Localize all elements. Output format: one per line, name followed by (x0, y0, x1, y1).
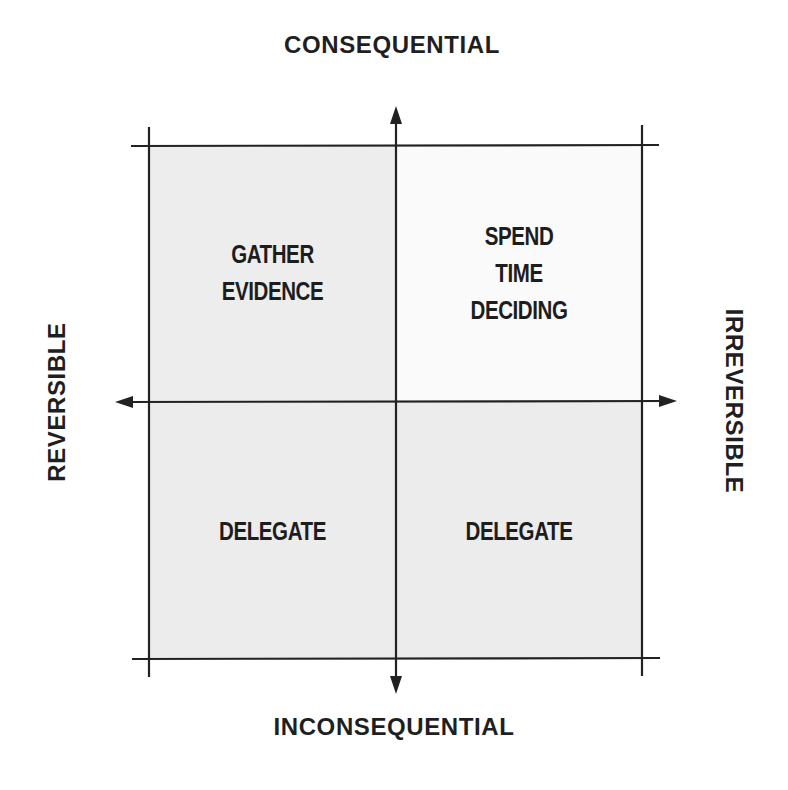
axis-label-text: REVERSIBLE (43, 322, 70, 481)
arrow-right-icon (659, 395, 677, 407)
arrow-left-icon (115, 396, 133, 408)
grid-lines (0, 0, 788, 790)
axis-label-irreversible: IRREVERSIBLE (720, 309, 748, 494)
arrow-up-icon (390, 106, 402, 124)
horizontal-axis-line (125, 401, 667, 402)
axis-label-text: CONSEQUENTIAL (284, 31, 500, 59)
axis-label-text: INCONSEQUENTIAL (273, 713, 514, 740)
axis-label-inconsequential: INCONSEQUENTIAL (0, 713, 788, 741)
arrow-down-icon (390, 676, 402, 694)
decision-matrix-diagram: GATHER EVIDENCE SPEND TIME DECIDING DELE… (0, 0, 788, 790)
axis-label-reversible: REVERSIBLE (43, 322, 71, 481)
axis-label-consequential: CONSEQUENTIAL (0, 31, 788, 59)
axis-label-text: IRREVERSIBLE (721, 309, 748, 494)
